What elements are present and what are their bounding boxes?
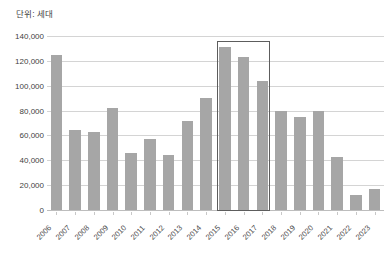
plot-area	[47, 36, 384, 210]
x-axis-tick-label: 2022	[335, 223, 353, 241]
x-axis-tickmark	[169, 212, 170, 215]
y-axis-tick-label: 140,000	[15, 32, 44, 41]
bar	[350, 195, 362, 210]
y-axis-tick-label: 20,000	[20, 181, 44, 190]
x-axis-tick-label: 2014	[185, 223, 203, 241]
bar	[182, 121, 194, 210]
x-axis: 2006200720082009201020112012201320142015…	[47, 212, 384, 253]
bar	[275, 111, 287, 210]
x-axis-tickmark	[131, 212, 132, 215]
x-axis-tick-label: 2023	[353, 223, 371, 241]
x-axis-tick-label: 2018	[260, 223, 278, 241]
bar	[294, 117, 306, 210]
x-axis-tick-label: 2021	[316, 223, 334, 241]
x-axis-tick-label: 2017	[241, 223, 259, 241]
y-axis-tick-label: 40,000	[20, 156, 44, 165]
bar	[163, 155, 175, 210]
y-axis-tick-label: 0	[40, 206, 44, 215]
x-axis-tickmark	[318, 212, 319, 215]
x-axis-tickmark	[375, 212, 376, 215]
y-axis-tick-label: 60,000	[20, 131, 44, 140]
x-axis-tickmark	[337, 212, 338, 215]
bar	[331, 157, 343, 210]
x-axis-tickmark	[150, 212, 151, 215]
x-axis-tickmark	[244, 212, 245, 215]
highlight-rectangle-annotation	[217, 41, 269, 211]
x-axis-tick-label: 2016	[222, 223, 240, 241]
x-axis-tickmark	[56, 212, 57, 215]
bar	[88, 132, 100, 210]
x-axis-tickmark	[206, 212, 207, 215]
x-axis-tickmark	[94, 212, 95, 215]
bar	[107, 108, 119, 210]
bar	[69, 130, 81, 210]
bars-layer	[47, 36, 384, 210]
y-axis-tick-label: 120,000	[15, 56, 44, 65]
x-axis-tick-label: 2012	[147, 223, 165, 241]
x-axis-tickmark	[356, 212, 357, 215]
bar	[369, 189, 381, 210]
x-axis-tick-label: 2008	[73, 223, 91, 241]
x-axis-tick-label: 2010	[110, 223, 128, 241]
y-axis-tick-label: 80,000	[20, 106, 44, 115]
gridline	[47, 210, 384, 211]
bar-chart: 단위: 세대 020,00040,00060,00080,000100,0001…	[0, 0, 391, 253]
bar	[51, 55, 63, 210]
x-axis-tick-label: 2013	[166, 223, 184, 241]
bar	[125, 153, 137, 210]
bar	[200, 98, 212, 210]
x-axis-tickmark	[75, 212, 76, 215]
x-axis-tick-label: 2011	[129, 224, 147, 242]
x-axis-tick-label: 2019	[279, 223, 297, 241]
y-axis-tick-label: 100,000	[15, 81, 44, 90]
bar	[144, 139, 156, 210]
bar	[313, 111, 325, 210]
x-axis-tickmark	[113, 212, 114, 215]
x-axis-tickmark	[225, 212, 226, 215]
x-axis-tick-label: 2007	[54, 223, 72, 241]
x-axis-tickmark	[281, 212, 282, 215]
x-axis-tick-label: 2009	[91, 223, 109, 241]
x-axis-tick-label: 2020	[297, 223, 315, 241]
x-axis-tickmark	[300, 212, 301, 215]
x-axis-tick-label: 2015	[204, 223, 222, 241]
x-axis-tickmark	[262, 212, 263, 215]
x-axis-tickmark	[187, 212, 188, 215]
y-axis: 020,00040,00060,00080,000100,000120,0001…	[0, 0, 44, 253]
